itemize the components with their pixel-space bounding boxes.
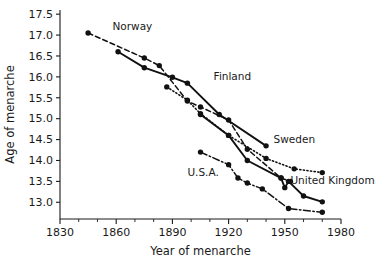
data-point bbox=[291, 166, 296, 171]
data-point bbox=[226, 133, 231, 138]
data-point bbox=[157, 63, 162, 68]
data-point bbox=[245, 180, 250, 185]
y-tick-label: 15.5 bbox=[29, 92, 54, 105]
series-label-finland: Finland bbox=[214, 70, 252, 82]
x-axis-title: Year of menarche bbox=[149, 244, 251, 258]
x-tick-label: 1920 bbox=[215, 226, 243, 239]
data-point bbox=[85, 30, 90, 35]
series-label-u-s-a: U.S.A. bbox=[187, 166, 218, 178]
data-point bbox=[226, 162, 231, 167]
y-tick-label: 13.5 bbox=[29, 175, 54, 188]
data-point bbox=[245, 158, 250, 163]
data-point bbox=[115, 49, 120, 54]
y-tick-label: 16.5 bbox=[29, 50, 54, 63]
data-point bbox=[235, 175, 240, 180]
x-tick-label: 1980 bbox=[327, 226, 355, 239]
y-tick-label: 14.0 bbox=[29, 154, 54, 167]
y-axis-title: Age of menarche bbox=[3, 65, 17, 163]
data-point bbox=[185, 80, 190, 85]
y-tick-label: 16.0 bbox=[29, 71, 54, 84]
series-line-norway bbox=[88, 33, 290, 181]
x-tick-label: 1890 bbox=[158, 226, 186, 239]
series-line-finland bbox=[118, 52, 266, 146]
data-point bbox=[320, 199, 325, 204]
data-point bbox=[286, 206, 291, 211]
series-label-norway: Norway bbox=[112, 20, 152, 32]
y-tick-label: 17.5 bbox=[29, 8, 54, 21]
y-tick-label: 15.0 bbox=[29, 112, 54, 125]
y-tick-label: 17.0 bbox=[29, 29, 54, 42]
data-point bbox=[142, 55, 147, 60]
chart-container: 13.013.514.014.515.015.516.016.517.017.5… bbox=[0, 0, 375, 263]
menarche-age-line-chart: 13.013.514.014.515.015.516.016.517.017.5… bbox=[0, 0, 375, 263]
data-point bbox=[170, 75, 175, 80]
x-tick-label: 1950 bbox=[271, 226, 299, 239]
y-tick-label: 13.0 bbox=[29, 196, 54, 209]
data-point bbox=[320, 210, 325, 215]
x-tick-label: 1860 bbox=[102, 226, 130, 239]
data-point bbox=[142, 65, 147, 70]
data-point bbox=[282, 185, 287, 190]
data-point bbox=[263, 143, 268, 148]
data-point bbox=[260, 186, 265, 191]
data-point bbox=[198, 149, 203, 154]
data-point bbox=[198, 104, 203, 109]
data-point bbox=[278, 175, 283, 180]
x-tick-label: 1830 bbox=[46, 226, 74, 239]
data-point bbox=[301, 193, 306, 198]
data-point bbox=[198, 112, 203, 117]
data-point bbox=[217, 112, 222, 117]
data-point bbox=[263, 156, 268, 161]
data-point bbox=[185, 98, 190, 103]
data-point bbox=[164, 84, 169, 89]
series-line-sweden bbox=[167, 87, 322, 173]
series-label-sweden: Sweden bbox=[274, 133, 316, 145]
y-tick-label: 14.5 bbox=[29, 133, 54, 146]
series-label-united-kingdom: United Kingdom bbox=[290, 174, 374, 186]
